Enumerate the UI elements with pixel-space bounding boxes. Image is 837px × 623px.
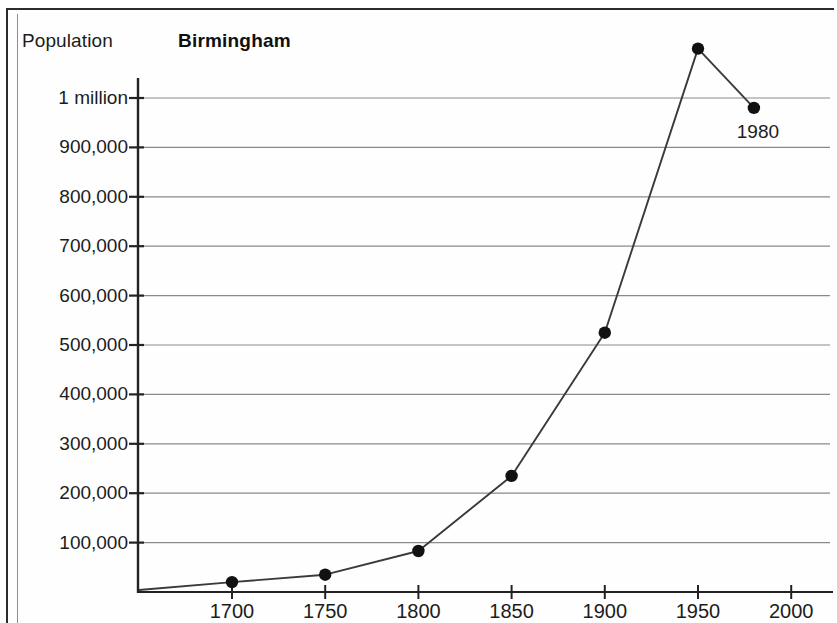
- data-point-marker: [748, 102, 760, 114]
- y-tick-label: 600,000: [59, 285, 128, 307]
- x-tick-label: 1900: [583, 600, 628, 623]
- population-chart-figure: Population Birmingham 100,000200,000300,…: [0, 0, 837, 623]
- data-point-marker: [319, 569, 331, 581]
- y-tick-label: 800,000: [59, 186, 128, 208]
- y-tick-label: 400,000: [59, 383, 128, 405]
- y-tick-label: 1 million: [58, 87, 128, 109]
- y-tick-label: 500,000: [59, 334, 128, 356]
- x-tick-label: 1800: [396, 600, 441, 623]
- data-point-marker: [505, 470, 517, 482]
- x-tick-label: 1700: [210, 600, 255, 623]
- point-annotation-label: 1980: [737, 121, 779, 143]
- gridlines-group: [138, 98, 830, 543]
- y-tick-label: 100,000: [59, 532, 128, 554]
- y-tick-marks-group: [129, 98, 144, 543]
- x-tick-label: 1850: [489, 600, 534, 623]
- data-point-markers-group: [226, 42, 760, 588]
- y-tick-label: 700,000: [59, 235, 128, 257]
- x-tick-label: 2000: [769, 600, 814, 623]
- population-line: [139, 49, 754, 590]
- data-point-marker: [412, 545, 424, 557]
- data-point-marker: [692, 42, 704, 54]
- y-tick-label: 900,000: [59, 136, 128, 158]
- y-tick-label: 200,000: [59, 482, 128, 504]
- y-tick-label: 300,000: [59, 433, 128, 455]
- data-point-marker: [599, 327, 611, 339]
- x-tick-label: 1750: [303, 600, 348, 623]
- x-tick-label: 1950: [676, 600, 721, 623]
- data-point-marker: [226, 576, 238, 588]
